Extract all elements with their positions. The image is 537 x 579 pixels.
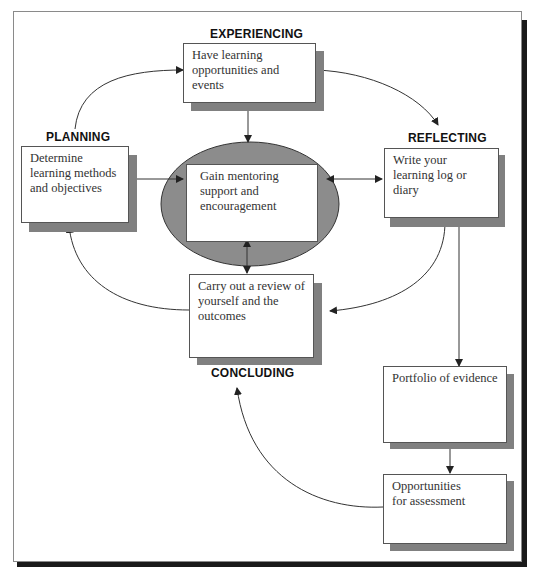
box-experiencing: Have learning opportunities and events [183, 43, 316, 103]
box-concluding: Carry out a review of yourself and the o… [189, 274, 314, 358]
box-center: Gain mentoring support and encouragement [186, 164, 318, 242]
arrow-concluding-to-planning [69, 226, 189, 310]
stage-label-experiencing: EXPERIENCING [210, 27, 303, 41]
stage-label-concluding: CONCLUDING [211, 366, 294, 380]
arrow-reflecting-to-concluding [330, 222, 445, 311]
box-portfolio: Portfolio of evidence [383, 366, 507, 443]
arrow-assessment-to-concluding [237, 388, 383, 507]
arrow-planning-to-experiencing [75, 70, 183, 129]
stage-label-reflecting: REFLECTING [408, 131, 487, 145]
box-reflecting: Write your learning log or diary [384, 148, 499, 218]
box-planning: Determine learning methods and objective… [21, 146, 129, 223]
box-assessment: Opportunities for assessment [383, 474, 507, 544]
stage-label-planning: PLANNING [46, 130, 110, 144]
arrow-experiencing-to-reflecting [316, 70, 438, 125]
